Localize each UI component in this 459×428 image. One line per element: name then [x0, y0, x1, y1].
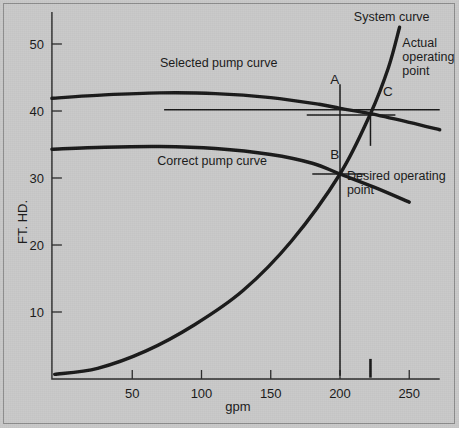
desired-operating-point-label: Desired operatingpoint [347, 169, 446, 197]
curves-group [52, 27, 440, 374]
actual-operating-point-label: Actualoperatingpoint [402, 36, 454, 78]
x-tick-label-250: 250 [398, 386, 420, 401]
selected-pump-curve-label: Selected pump curve [160, 56, 277, 70]
y-axis-title: FT. HD. [15, 200, 30, 244]
chart-canvas: 102030405050100150200250 System curveSel… [0, 0, 459, 428]
x-tick-label-50: 50 [125, 386, 139, 401]
system-curve-label: System curve [354, 10, 430, 24]
curve-selected-pump-curve [52, 93, 440, 130]
curve-system-curve [55, 27, 400, 374]
x-axis-title: gpm [225, 399, 250, 414]
y-tick-label-50: 50 [29, 37, 43, 52]
y-tick-label-30: 30 [29, 171, 43, 186]
x-tick-label-150: 150 [260, 386, 282, 401]
y-tick-label-20: 20 [29, 238, 43, 253]
correct-pump-curve-label: Correct pump curve [157, 154, 267, 168]
x-tick-label-200: 200 [329, 386, 351, 401]
y-tick-label-10: 10 [29, 305, 43, 320]
point-c-label: C [383, 84, 393, 99]
point-b-label: B [330, 147, 339, 162]
x-tick-label-100: 100 [191, 386, 213, 401]
pump-system-curve-figure: 102030405050100150200250 System curveSel… [0, 0, 459, 428]
point-a-label: A [330, 72, 339, 87]
y-tick-label-40: 40 [29, 104, 43, 119]
reference-lines-group [164, 84, 440, 377]
